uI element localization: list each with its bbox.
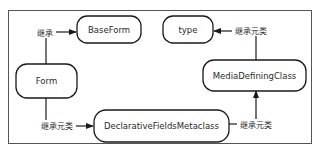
edge-form-to-declarativefieldsmetaclass: 继承元类: [38, 98, 93, 131]
node-label: DeclarativeFieldsMetaclass: [104, 121, 220, 131]
node-declarativefieldsmetaclass: DeclarativeFieldsMetaclass: [94, 110, 229, 142]
edge-label: 继承元类: [235, 26, 267, 36]
node-label: BaseForm: [88, 25, 130, 35]
edge-mediadefiningclass-to-type: 继承元类: [214, 25, 270, 60]
node-label: type: [179, 25, 198, 35]
node-label: Form: [36, 76, 57, 86]
edge-form-to-baseform: 继承: [34, 27, 76, 64]
edge-label: 继承元类: [240, 120, 272, 130]
edge-label: 继承元类: [41, 121, 73, 131]
edge-label: 继承: [37, 28, 53, 38]
node-mediadefiningclass: MediaDefiningClass: [203, 60, 306, 91]
node-baseform: BaseForm: [77, 16, 141, 43]
node-form: Form: [16, 64, 77, 98]
node-label: MediaDefiningClass: [213, 71, 297, 81]
node-type: type: [163, 16, 213, 43]
edge-declarativefieldsmetaclass-to-mediadefiningclass: 继承元类: [229, 91, 275, 130]
inheritance-diagram: 继承 继承元类 继承元类 继承元类 BaseForm type Form: [0, 0, 320, 156]
